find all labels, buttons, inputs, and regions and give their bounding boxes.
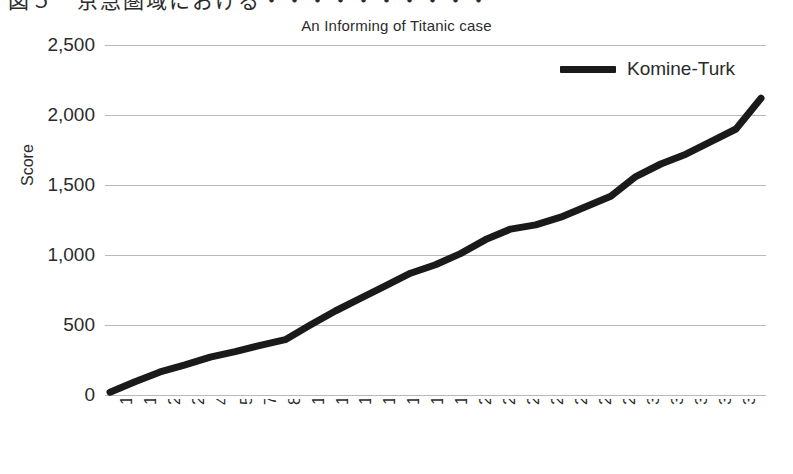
x-axis-tick-label: 593 [237,399,257,405]
x-axis-tick-label: 3,553 [716,399,736,405]
x-axis-tick-label: 1,925 [452,399,472,405]
x-axis-tick-label: 2,665 [572,399,592,405]
x-axis-tick-label: 297 [165,399,185,405]
y-axis-title: Score [19,144,37,186]
gridline [105,395,766,396]
x-axis-tick-labels: 11492972974455937418891,0371,1851,3331,4… [0,399,793,474]
y-axis-tick-label: 2,000 [47,104,95,126]
y-axis-tick-label: 2,500 [47,34,95,56]
x-axis-tick-label: 2,813 [596,399,616,405]
x-axis-tick-label: 1,333 [356,399,376,405]
x-axis-tick-label: 2,073 [476,399,496,405]
x-axis-tick-label: 741 [261,399,281,405]
x-axis-tick-label: 2,517 [548,399,568,405]
x-axis-tick-label: 2,961 [620,399,640,405]
x-axis-tick-label: 1,185 [333,399,353,405]
series-line-komine-turk [105,45,766,395]
x-axis-tick-label: 1,629 [404,399,424,405]
legend-swatch-komine-turk [560,66,616,73]
x-axis-tick-label: 1,484 [380,399,400,405]
x-axis-tick-label: 3,257 [668,399,688,405]
y-axis-tick-label: 1,500 [47,174,95,196]
y-axis-tick-label: 500 [63,314,95,336]
x-axis-tick-label: 1,037 [309,399,329,405]
plot-area [105,45,766,395]
x-axis-tick-label: 889 [285,399,305,405]
x-axis-tick-label: 445 [213,399,233,405]
chart-page: 図５ 京急圏域における・・・・・・・・・・ An Informing of Ti… [0,0,793,474]
chart-legend: Komine-Turk [560,58,735,80]
x-axis-tick-label: 1 [117,399,137,405]
x-axis-tick-label: 2,221 [500,399,520,405]
x-axis-tick-label: 1,777 [428,399,448,405]
y-axis-tick-label: 1,000 [47,244,95,266]
x-axis-tick-label: 2,369 [524,399,544,405]
legend-label-komine-turk: Komine-Turk [627,58,735,80]
x-axis-tick-label: 149 [141,399,161,405]
x-axis-tick-label: 297 [189,399,209,405]
x-axis-tick-label: 3,701 [740,399,760,405]
x-axis-tick-label: 3,405 [692,399,712,405]
x-axis-tick-label: 3,109 [644,399,664,405]
